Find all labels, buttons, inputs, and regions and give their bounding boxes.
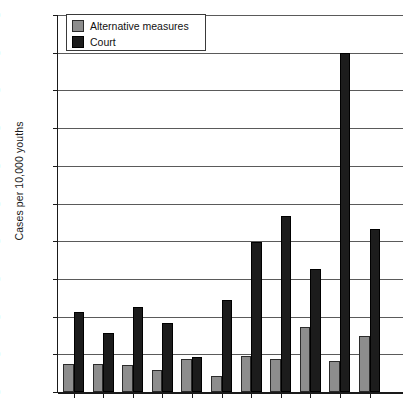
legend-item: Court (72, 34, 205, 49)
bar-sk-court (281, 216, 292, 392)
x-tick-mark (133, 392, 134, 398)
x-tick-mark (281, 392, 282, 398)
bar-nb-court (162, 323, 173, 392)
bar-pe-alternative-measures (93, 364, 104, 392)
bar-pe-court (103, 333, 114, 392)
legend-label: Court (90, 36, 116, 48)
x-tick-mark (192, 392, 193, 398)
plot-area: 2,0001,8001,6001,4001,2001,0008006004002… (57, 15, 403, 392)
legend-item: Alternative measures (72, 18, 205, 33)
bar-group (300, 15, 321, 392)
bar-sk-alternative-measures (270, 359, 281, 392)
bar-qc-court (192, 357, 203, 392)
bar-mn-alternative-measures (241, 356, 252, 392)
x-tick-mark (162, 392, 163, 398)
bar-nf-court (74, 312, 85, 392)
bar-ab-alternative-measures (300, 327, 311, 392)
x-tick-mark (251, 392, 252, 398)
bar-group (211, 15, 232, 392)
bar-ns-court (133, 307, 144, 392)
bar-group (270, 15, 291, 392)
x-tick-mark (222, 392, 223, 398)
bars-layer (58, 15, 403, 392)
bar-group (63, 15, 84, 392)
y-axis-title: Cases per 10,000 youths (13, 96, 25, 266)
bar-on-court (222, 300, 233, 392)
y-tick-mark (53, 392, 58, 393)
bar-group (241, 15, 262, 392)
legend-swatch-alt-icon (72, 20, 84, 32)
bar-group (181, 15, 202, 392)
legend-label: Alternative measures (90, 20, 189, 32)
bar-chart: Cases per 10,000 youths 2,0001,8001,6001… (0, 0, 403, 414)
x-tick-mark (370, 392, 371, 398)
bar-yu-alternative-measures (329, 361, 340, 392)
bar-qc-alternative-measures (181, 359, 192, 392)
bar-ab-court (310, 269, 321, 392)
bar-yu-court (340, 53, 351, 392)
chart-legend: Alternative measuresCourt (66, 14, 206, 51)
x-tick-mark (103, 392, 104, 398)
bar-nf-alternative-measures (63, 364, 74, 392)
bar-nw-alternative-measures (359, 336, 370, 392)
bar-group (329, 15, 350, 392)
bar-on-alternative-measures (211, 376, 222, 392)
bar-mn-court (251, 242, 262, 392)
bar-ns-alternative-measures (122, 365, 133, 392)
x-tick-mark (310, 392, 311, 398)
bar-group (359, 15, 380, 392)
bar-nb-alternative-measures (152, 370, 163, 392)
legend-swatch-court-icon (72, 36, 84, 48)
gridline (58, 392, 403, 394)
bar-group (152, 15, 173, 392)
bar-group (93, 15, 114, 392)
x-tick-mark (74, 392, 75, 398)
bar-nw-court (370, 229, 381, 392)
x-tick-mark (340, 392, 341, 398)
bar-group (122, 15, 143, 392)
